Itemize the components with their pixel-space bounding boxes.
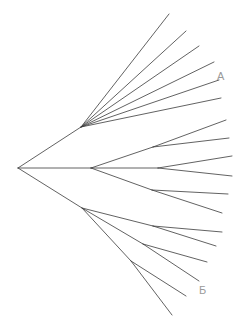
clade-label-a: A (217, 71, 225, 82)
tree-svg-canvas (0, 0, 239, 331)
diagram-background (0, 0, 239, 331)
phylogenetic-tree-diagram: A Б (0, 0, 239, 331)
clade-label-b: Б (199, 285, 207, 296)
